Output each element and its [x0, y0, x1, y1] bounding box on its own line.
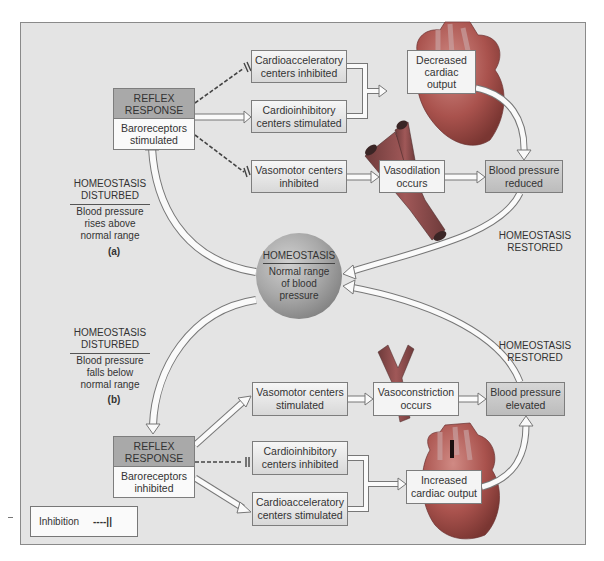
box-line2: elevated — [506, 399, 546, 412]
homeostasis-sphere: HOMEOSTASIS Normal range of blood pressu… — [256, 233, 342, 319]
box-line1: Blood pressure — [490, 386, 561, 399]
cardioacceleratory-stimulated-box: Cardioacceleratory centers stimulated — [252, 492, 348, 526]
homeostasis-line3: pressure — [280, 290, 319, 302]
box-line2: cardiac output — [411, 487, 477, 500]
disturbed-title-line1: HOMEOSTASIS — [70, 178, 150, 190]
homeostasis-disturbed-label-b: HOMEOSTASIS DISTURBED Blood pressure fal… — [70, 327, 150, 391]
box-line1: Vasoconstriction — [378, 386, 454, 399]
disturbed-desc-line1: Blood pressure — [70, 206, 150, 218]
inhibition-symbol-icon: ----|| — [93, 516, 112, 527]
box-line2: centers inhibited — [262, 458, 338, 471]
disturbed-desc-line3: normal range — [70, 379, 150, 391]
baroreceptors-state: Baroreceptors inhibited — [114, 466, 194, 497]
box-line1: Cardioacceleratory — [256, 496, 344, 509]
cardioinhibitory-stimulated-box: Cardioinhibitory centers stimulated — [251, 100, 347, 133]
reflex-line1: REFLEX — [114, 92, 194, 104]
disturbed-desc-line1: Blood pressure — [70, 355, 150, 367]
homeostasis-line1: Normal range — [269, 266, 330, 278]
baroreceptors-line2: stimulated — [114, 134, 194, 146]
restored-line2: RESTORED — [493, 352, 577, 364]
restored-line1: HOMEOSTASIS — [493, 340, 577, 352]
box-line2: occurs — [397, 177, 428, 190]
decreased-cardiac-output-box: Decreased cardiac output — [407, 50, 476, 94]
reflex-response-header: REFLEX RESPONSE — [114, 437, 194, 466]
box-line3: output — [427, 78, 456, 90]
box-line2: occurs — [401, 399, 432, 412]
increased-cardiac-output-box: Increased cardiac output — [406, 470, 482, 504]
box-line1: Vasomotor centers — [256, 386, 343, 399]
reflex-line1: REFLEX — [114, 440, 194, 452]
box-line2: inhibited — [279, 177, 318, 190]
box-line2: reduced — [505, 177, 543, 190]
cardioacceleratory-inhibited-box: Cardioacceleratory centers inhibited — [251, 50, 347, 83]
baroreceptors-line1: Baroreceptors — [114, 122, 194, 134]
blood-pressure-reduced-box: Blood pressure reduced — [485, 160, 563, 193]
box-line1: Cardioinhibitory — [263, 104, 336, 117]
baroreceptors-line1: Baroreceptors — [114, 470, 194, 482]
reflex-response-box-a: REFLEX RESPONSE Baroreceptors stimulated — [113, 88, 195, 150]
restored-line1: HOMEOSTASIS — [493, 230, 577, 242]
box-line2: stimulated — [276, 399, 324, 412]
blood-pressure-elevated-box: Blood pressure elevated — [486, 382, 565, 416]
vasoconstriction-box: Vasoconstriction occurs — [373, 382, 459, 416]
legend-label: Inhibition — [39, 516, 79, 527]
disturbed-desc-line3: normal range — [70, 230, 150, 242]
vasodilation-box: Vasodilation occurs — [379, 160, 445, 193]
baroreceptors-state: Baroreceptors stimulated — [114, 118, 194, 149]
box-line2: cardiac — [425, 66, 459, 78]
homeostasis-restored-label-a: HOMEOSTASIS RESTORED — [493, 230, 577, 254]
box-line1: Increased — [421, 474, 467, 487]
legend-box: Inhibition ----|| — [30, 506, 138, 537]
disturbed-title-line2: DISTURBED — [70, 339, 150, 351]
box-line2: centers inhibited — [261, 67, 337, 80]
reflex-line2: RESPONSE — [114, 452, 194, 464]
reflex-line2: RESPONSE — [114, 104, 194, 116]
homeostasis-line2: of blood — [281, 278, 317, 290]
reflex-response-box-b: REFLEX RESPONSE Baroreceptors inhibited — [113, 436, 195, 498]
homeostasis-title: HOMEOSTASIS — [263, 250, 336, 264]
disturbed-title-line2: DISTURBED — [70, 190, 150, 202]
cardioinhibitory-inhibited-box: Cardioinhibitory centers inhibited — [252, 441, 348, 475]
box-line1: Cardioacceleratory — [255, 54, 343, 67]
reflex-response-header: REFLEX RESPONSE — [114, 89, 194, 118]
vasomotor-inhibited-box: Vasomotor centers inhibited — [251, 160, 347, 193]
panel-label-a: (a) — [104, 246, 124, 258]
box-line1: Blood pressure — [489, 164, 560, 177]
margin-tick — [8, 517, 13, 518]
baroreceptors-line2: inhibited — [114, 482, 194, 494]
vasomotor-stimulated-box: Vasomotor centers stimulated — [252, 382, 348, 416]
box-line1: Vasodilation — [384, 164, 440, 177]
box-line2: centers stimulated — [257, 509, 342, 522]
disturbed-desc-line2: falls below — [70, 367, 150, 379]
restored-line2: RESTORED — [493, 242, 577, 254]
homeostasis-disturbed-label-a: HOMEOSTASIS DISTURBED Blood pressure ris… — [70, 178, 150, 242]
box-line1: Decreased — [416, 54, 467, 66]
panel-label-b: (b) — [104, 394, 124, 406]
divider — [70, 353, 150, 354]
disturbed-desc-line2: rises above — [70, 218, 150, 230]
box-line1: Cardioinhibitory — [264, 445, 337, 458]
box-line2: centers stimulated — [256, 117, 341, 130]
disturbed-title-line1: HOMEOSTASIS — [70, 327, 150, 339]
homeostasis-restored-label-b: HOMEOSTASIS RESTORED — [493, 340, 577, 364]
box-line1: Vasomotor centers — [255, 164, 342, 177]
divider — [70, 204, 150, 205]
